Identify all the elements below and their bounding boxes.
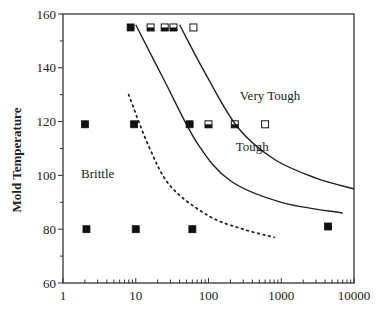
boundary-curves xyxy=(129,25,354,238)
region-label-tough: Tough xyxy=(236,139,270,154)
filled-square-marker xyxy=(127,24,134,31)
filled-square-marker xyxy=(83,226,90,233)
marker-fill xyxy=(161,27,168,31)
half-filled-square-marker xyxy=(161,24,168,31)
y-tick-label: 100 xyxy=(37,168,57,183)
y-tick-label: 60 xyxy=(43,276,56,291)
tick-labels: 1101001000100006080100120140160 xyxy=(37,7,371,304)
marker-fill xyxy=(170,27,177,31)
plot-border xyxy=(63,14,354,283)
region-label-brittle: Brittle xyxy=(81,166,114,181)
filled-square-marker xyxy=(189,226,196,233)
dotted-boundary-curve xyxy=(129,95,275,238)
data-markers xyxy=(81,24,331,233)
half-filled-square-marker xyxy=(231,121,238,128)
axis-ticks xyxy=(58,14,354,283)
plot-frame xyxy=(63,14,354,283)
filled-square-marker xyxy=(325,223,332,230)
solid-boundary-curve xyxy=(136,25,343,213)
y-axis-title: Mold Temperature xyxy=(9,107,24,212)
y-tick-label: 140 xyxy=(37,60,57,75)
half-filled-square-marker xyxy=(147,24,154,31)
solid-boundary-curve xyxy=(180,25,354,189)
x-tick-label: 10 xyxy=(129,288,142,303)
marker-fill xyxy=(231,124,238,128)
filled-square-marker xyxy=(131,121,138,128)
y-tick-label: 80 xyxy=(43,222,56,237)
marker-fill xyxy=(205,124,212,128)
x-tick-label: 100 xyxy=(199,288,219,303)
x-tick-label: 10000 xyxy=(338,288,371,303)
region-label-very-tough: Very Tough xyxy=(240,88,301,103)
filled-square-marker xyxy=(81,121,88,128)
open-square-marker xyxy=(190,24,197,31)
filled-square-marker xyxy=(132,226,139,233)
y-tick-label: 160 xyxy=(37,7,57,22)
region-labels: Very ToughToughBrittle xyxy=(81,88,301,181)
chart: 1101001000100006080100120140160 Very Tou… xyxy=(0,0,378,311)
filled-square-marker xyxy=(186,121,193,128)
open-square-marker xyxy=(262,121,269,128)
x-tick-label: 1 xyxy=(60,288,67,303)
x-tick-label: 1000 xyxy=(268,288,294,303)
half-filled-square-marker xyxy=(170,24,177,31)
y-tick-label: 120 xyxy=(37,114,57,129)
marker-fill xyxy=(147,27,154,31)
half-filled-square-marker xyxy=(205,121,212,128)
